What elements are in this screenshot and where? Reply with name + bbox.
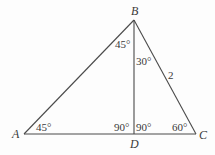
angle-label-a: 45° [36,121,51,133]
side-label-bc: 2 [168,69,174,81]
vertex-label-b: B [131,4,139,18]
vertex-label-c: C [199,128,208,142]
vertex-label-a: A [11,127,20,141]
angle-label-adb: 90° [114,121,129,133]
diagram-svg: B A C D 45° 45° 30° 90° 90° 60° 2 [0,0,215,155]
triangle-diagram: B A C D 45° 45° 30° 90° 90° 60° 2 [0,0,215,155]
angle-label-c: 60° [172,121,187,133]
angle-label-abd: 45° [115,38,130,50]
angle-label-bdc: 90° [136,121,151,133]
vertex-label-d: D [129,137,139,151]
segment-bc [134,20,196,134]
angle-label-dbc: 30° [136,55,151,67]
